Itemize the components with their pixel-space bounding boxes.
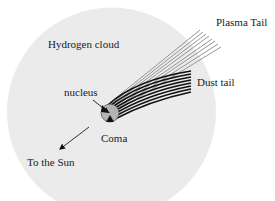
plasma-tail-label: Plasma Tail bbox=[216, 16, 267, 28]
coma-label: Coma bbox=[101, 132, 127, 144]
to-sun-label: To the Sun bbox=[27, 156, 75, 168]
hydrogen-cloud-label: Hydrogen cloud bbox=[48, 38, 120, 50]
dust-tail-label: Dust tail bbox=[197, 76, 235, 88]
comet-diagram: Hydrogen cloud Plasma Tail Dust tail nuc… bbox=[0, 0, 275, 201]
nucleus-label: nucleus bbox=[64, 86, 98, 98]
